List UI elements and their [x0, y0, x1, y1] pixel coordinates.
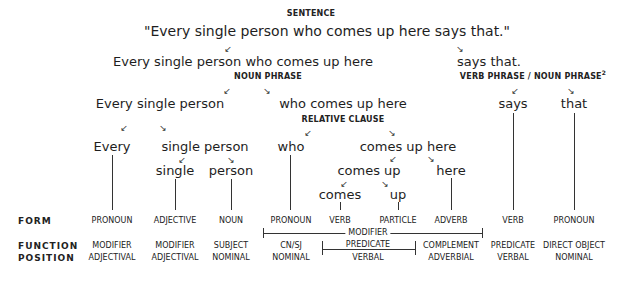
stem-here	[451, 178, 452, 210]
form-single: ADJECTIVE	[154, 215, 196, 227]
row-label-function: FUNCTION	[18, 240, 78, 252]
form-comes: VERB	[329, 215, 351, 227]
word-up: up	[390, 188, 407, 202]
modifier-bracket-right-tick	[482, 228, 483, 238]
function-here: COMPLEMENT	[423, 240, 479, 252]
form-who: PRONOUN	[271, 215, 312, 227]
vp-that: that	[561, 97, 587, 111]
noun-phrase-text: Every single person who comes up here	[113, 55, 373, 69]
position-says: VERBAL	[497, 252, 529, 264]
position-predicate-bracket: VERBAL	[352, 252, 384, 264]
arrow-down-right-icon: ↘	[456, 45, 464, 54]
position-here: ADVERBIAL	[428, 252, 473, 264]
vp-says: says	[498, 97, 527, 111]
function-person: SUBJECT	[214, 240, 248, 252]
np-every-single-person: Every single person	[96, 97, 224, 111]
stem-who	[290, 155, 291, 210]
stem-says	[513, 113, 514, 210]
arrow-down-right-icon: ↘	[567, 87, 575, 96]
stem-comes	[340, 202, 341, 210]
function-says: PREDICATE	[491, 240, 535, 252]
row-label-position: POSITION	[18, 252, 75, 264]
np-who-comes-up-here: who comes up here	[279, 97, 407, 111]
phrase-comes-up: comes up	[337, 164, 400, 178]
function-that: DIRECT OBJECT	[543, 240, 605, 252]
position-who: NOMINAL	[272, 252, 309, 264]
arrow-down-left-icon: ↙	[223, 87, 231, 96]
form-that: PRONOUN	[554, 215, 595, 227]
position-single: ADJECTIVAL	[152, 252, 199, 264]
noun-phrase-label: NOUN PHRASE	[234, 72, 302, 81]
arrow-down-right-icon: ↘	[427, 155, 435, 164]
word-who: who	[278, 140, 305, 154]
modifier-bracket-label: MODIFIER	[345, 227, 390, 239]
sentence-text: "Every single person who comes up here s…	[144, 24, 510, 38]
arrow-down-right-icon: ↘	[263, 87, 271, 96]
arrow-down-right-icon: ↘	[159, 124, 167, 133]
position-person: NOMINAL	[212, 252, 249, 264]
stem-up	[398, 202, 399, 210]
arrow-down-right-icon: ↘	[388, 129, 396, 138]
function-every: MODIFIER	[92, 240, 131, 252]
phrase-single-person: single person	[161, 140, 248, 154]
form-every: PRONOUN	[92, 215, 133, 227]
footnote-marker: 2	[602, 69, 606, 76]
function-single: MODIFIER	[155, 240, 194, 252]
relative-clause-label: RELATIVE CLAUSE	[302, 115, 385, 124]
position-every: ADJECTIVAL	[89, 252, 136, 264]
position-that: NOMINAL	[555, 252, 592, 264]
form-here: ADVERB	[434, 215, 467, 227]
word-person: person	[209, 164, 254, 178]
predicate-bracket-right-tick	[415, 241, 416, 255]
row-label-form: FORM	[18, 215, 52, 227]
arrow-down-left-icon: ↙	[224, 45, 232, 54]
function-who: CN/SJ	[280, 240, 302, 252]
arrow-down-left-icon: ↙	[304, 129, 312, 138]
phrase-comes-up-here: comes up here	[360, 140, 457, 154]
predicate-bracket-left-tick	[322, 241, 323, 255]
stem-that	[574, 113, 575, 210]
form-says: VERB	[502, 215, 524, 227]
verb-phrase-label: VERB PHRASE / NOUN PHRASE2	[460, 72, 606, 81]
verb-phrase-label-text: VERB PHRASE / NOUN PHRASE	[460, 72, 602, 81]
predicate-bracket-line	[322, 249, 415, 250]
word-comes: comes	[319, 188, 362, 202]
word-every: Every	[94, 140, 131, 154]
arrow-down-left-icon: ↙	[511, 87, 519, 96]
form-up: PARTICLE	[379, 215, 416, 227]
arrow-down-left-icon: ↙	[120, 124, 128, 133]
modifier-bracket-left-tick	[263, 228, 264, 238]
stem-person	[231, 179, 232, 210]
stem-every	[112, 155, 113, 210]
verb-phrase-text: says that.	[457, 55, 521, 69]
arrow-down-right-icon: ↘	[381, 180, 389, 189]
word-single: single	[156, 164, 195, 178]
form-person: NOUN	[219, 215, 243, 227]
sentence-label: SENTENCE	[287, 9, 335, 18]
word-here: here	[436, 164, 465, 178]
stem-single	[175, 179, 176, 210]
